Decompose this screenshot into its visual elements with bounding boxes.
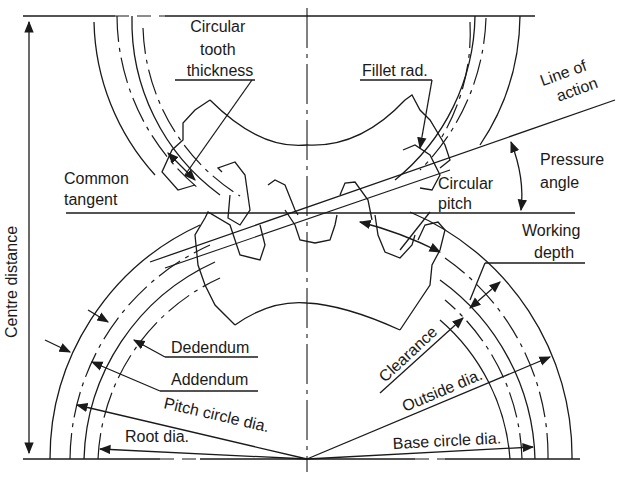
gear-terminology-diagram: Circular tooth thickness Fillet rad. Lin… xyxy=(0,0,625,482)
lower-gear-circles xyxy=(50,212,572,459)
circular-tooth-thickness-label: Circular tooth thickness xyxy=(187,18,254,79)
lower-gear-teeth xyxy=(195,210,445,330)
common-tangent-label: Common tangent xyxy=(64,170,133,208)
upper-gear-teeth xyxy=(162,95,450,225)
line-of-action-label: Line of action xyxy=(538,55,600,108)
root-dia-label: Root dia. xyxy=(125,428,189,445)
working-depth-label: Working depth xyxy=(522,222,585,261)
fillet-rad-label: Fillet rad. xyxy=(362,62,428,79)
circular-tooth-thickness-dimension xyxy=(168,80,255,180)
pressure-angle-arc xyxy=(511,142,522,210)
addendum-label: Addendum xyxy=(171,371,248,388)
fillet-rad-leader xyxy=(360,80,432,148)
clearance-label: Clearance xyxy=(375,323,440,385)
pressure-angle-label: Pressure angle xyxy=(540,151,608,191)
circular-pitch-label: Circular pitch xyxy=(438,175,498,212)
base-circle-dia-label: Base circle dia. xyxy=(392,429,501,452)
working-depth-dimension xyxy=(470,263,585,308)
root-dia-leader xyxy=(100,449,307,459)
dedendum-label: Dedendum xyxy=(171,339,249,356)
centre-distance-label: Centre distance xyxy=(3,226,20,338)
